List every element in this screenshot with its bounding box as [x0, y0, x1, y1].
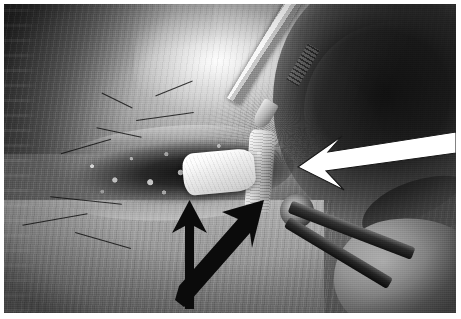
white-arrow: [298, 132, 456, 190]
figure-root: Black and white intraoperative surgical …: [0, 0, 461, 319]
clinical-photograph: [4, 4, 456, 313]
annotation-layer: [4, 4, 456, 313]
white-arrow-shape: [298, 132, 456, 190]
